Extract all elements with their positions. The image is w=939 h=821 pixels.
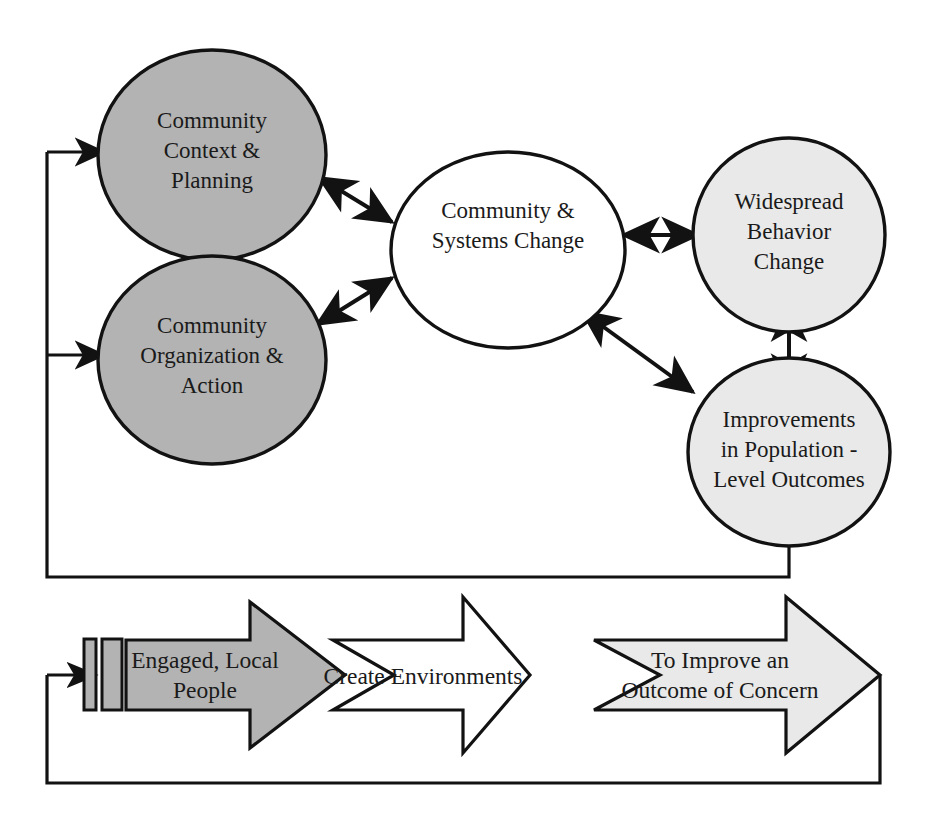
banner-tick-bar-2: [102, 639, 122, 710]
banner-tick-bar-1: [84, 639, 96, 710]
node-label-line-3: Planning: [171, 168, 253, 193]
arrow-banner-engaged-local-people[interactable]: Engaged, Local People: [126, 602, 345, 748]
banner-arrow-shape: [126, 602, 345, 748]
node-label-line-2: Organization &: [140, 343, 283, 368]
node-label-line-1: Community: [157, 108, 267, 133]
node-community-organization-action[interactable]: Community Organization & Action: [98, 256, 326, 464]
arrow-banner-create-environments[interactable]: Create Environments: [323, 597, 530, 753]
connector-organization-to-systems: [318, 278, 392, 324]
node-label-line-3: Level Outcomes: [713, 467, 864, 492]
diagram-svg: Community Context & Planning Community O…: [0, 0, 939, 821]
node-label-line-3: Change: [754, 249, 824, 274]
node-label-line-2: Systems Change: [432, 228, 585, 253]
node-label-line-1: Community: [157, 313, 267, 338]
node-label-line-1: Improvements: [723, 407, 856, 432]
connector-context-to-systems: [320, 178, 392, 222]
node-community-systems-change[interactable]: Community & Systems Change: [391, 152, 625, 348]
node-label-line-2: Context &: [164, 138, 261, 163]
node-label-line-1: Community &: [441, 198, 575, 223]
node-label-line-2: in Population -: [721, 437, 858, 462]
node-widespread-behavior-change[interactable]: Widespread Behavior Change: [693, 138, 885, 332]
node-label-line-3: Action: [181, 373, 244, 398]
arrow-banner-to-improve-an-outcome-of-concern[interactable]: To Improve an Outcome of Concern: [594, 597, 880, 753]
banner-arrow-shape: [594, 597, 880, 753]
node-label-line-1: Widespread: [735, 189, 844, 214]
banner-label-line-1: Create Environments: [323, 663, 522, 689]
banner-label-line-1: To Improve an: [651, 647, 789, 673]
banner-label-line-1: Engaged, Local: [131, 647, 279, 673]
banner-label-line-2: Outcome of Concern: [621, 677, 818, 703]
connector-systems-to-outcomes: [583, 312, 693, 392]
diagram-canvas: Community Context & Planning Community O…: [0, 0, 939, 821]
node-label-line-2: Behavior: [747, 219, 832, 244]
node-community-context-planning[interactable]: Community Context & Planning: [98, 50, 326, 260]
node-improvements-population-level-outcomes[interactable]: Improvements in Population - Level Outco…: [688, 358, 890, 546]
arrow-banner-row: Engaged, Local People Create Environment…: [84, 597, 880, 753]
banner-label-line-2: People: [173, 677, 237, 703]
